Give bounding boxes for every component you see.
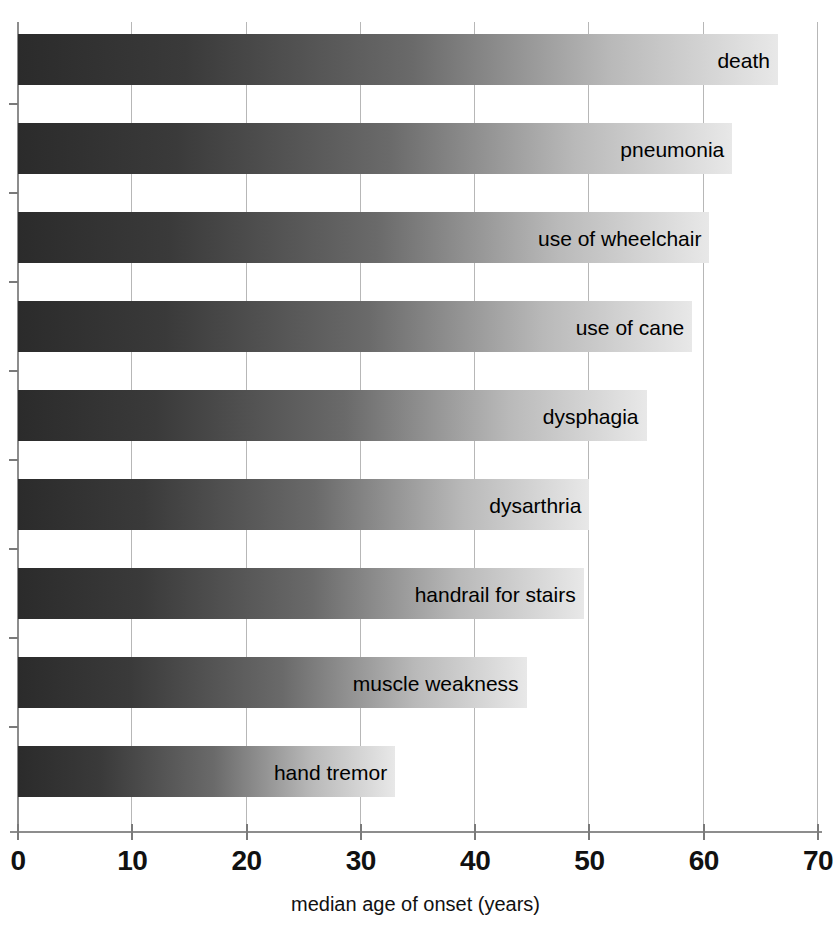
bar-dysphagia: dysphagia <box>18 390 647 441</box>
y-tick-1 <box>9 192 18 194</box>
bar-label: use of wheelchair <box>538 227 701 248</box>
x-tick-10 <box>131 824 133 840</box>
bar-label: pneumonia <box>620 138 724 159</box>
x-tick-label-20: 20 <box>231 845 261 877</box>
x-tick-label-40: 40 <box>460 845 490 877</box>
x-tick-label-50: 50 <box>574 845 604 877</box>
bar-label: hand tremor <box>274 761 387 782</box>
x-tick-20 <box>246 824 248 840</box>
x-tick-label-0: 0 <box>10 845 25 877</box>
x-axis-title: median age of onset (years) <box>0 893 831 916</box>
x-tick-label-70: 70 <box>803 845 833 877</box>
bar-label: death <box>717 49 770 70</box>
bar-dysarthria: dysarthria <box>18 479 589 530</box>
bar-use-of-cane: use of cane <box>18 301 692 352</box>
bar-use-of-wheelchair: use of wheelchair <box>18 212 709 263</box>
bar-hand-tremor: hand tremor <box>18 746 395 797</box>
y-tick-5 <box>9 548 18 550</box>
y-tick-4 <box>9 459 18 461</box>
gridline-70 <box>817 22 818 830</box>
bar-death: death <box>18 34 778 85</box>
bar-label: use of cane <box>576 316 685 337</box>
y-tick-6 <box>9 637 18 639</box>
y-tick-0 <box>9 103 18 105</box>
bar-pneumonia: pneumonia <box>18 123 732 174</box>
x-tick-label-10: 10 <box>117 845 147 877</box>
y-tick-3 <box>9 370 18 372</box>
y-tick-2 <box>9 281 18 283</box>
x-tick-0 <box>17 824 19 840</box>
y-tick-7 <box>9 726 18 728</box>
bar-muscle-weakness: muscle weakness <box>18 657 527 708</box>
bar-label: muscle weakness <box>353 672 519 693</box>
bar-label: dysphagia <box>543 405 639 426</box>
bar-label: handrail for stairs <box>415 583 576 604</box>
bar-handrail-for-stairs: handrail for stairs <box>18 568 584 619</box>
x-tick-50 <box>588 824 590 840</box>
x-tick-60 <box>703 824 705 840</box>
x-tick-40 <box>474 824 476 840</box>
bar-label: dysarthria <box>489 494 581 515</box>
x-tick-30 <box>360 824 362 840</box>
x-tick-70 <box>817 824 819 840</box>
x-tick-label-60: 60 <box>689 845 719 877</box>
x-tick-label-30: 30 <box>346 845 376 877</box>
